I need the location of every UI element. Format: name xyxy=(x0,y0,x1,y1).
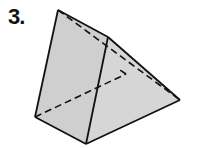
triangular-prism-figure xyxy=(0,0,197,148)
